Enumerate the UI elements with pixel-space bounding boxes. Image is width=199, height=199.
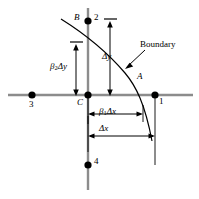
dim-beta2-delta-y-arrow-up xyxy=(73,44,79,51)
beta1-delta-x-term: Δx xyxy=(107,106,116,116)
boundary-leader-arrowhead xyxy=(125,63,133,69)
dim-label-delta-y: Δy xyxy=(102,52,111,61)
dim-label-delta-x: Δx xyxy=(99,124,108,133)
dim-beta1-arrow-right xyxy=(137,111,144,116)
boundary-leader-group xyxy=(125,50,145,69)
node-label-c: C xyxy=(77,98,83,107)
node-dot-4[interactable] xyxy=(84,161,91,168)
node-label-3: 3 xyxy=(29,100,34,109)
boundary-stencil-figure: 1 2 3 4 C A B Boundary Δy Δx β1Δx β2Δy xyxy=(0,0,199,199)
node-dot-3[interactable] xyxy=(28,91,35,98)
dim-label-beta2-delta-y: β2Δy xyxy=(50,62,67,72)
point-label-b: B xyxy=(74,13,80,22)
boundary-leader-line xyxy=(128,50,145,66)
node-label-1: 1 xyxy=(159,97,164,106)
dim-beta2-delta-y-group xyxy=(70,42,83,96)
boundary-label: Boundary xyxy=(140,40,176,49)
beta2-delta-y-term: Δy xyxy=(58,61,67,71)
node-dot-2[interactable] xyxy=(84,17,91,24)
node-label-2: 2 xyxy=(94,13,99,22)
node-label-4: 4 xyxy=(94,157,99,166)
node-dot-1[interactable] xyxy=(151,91,158,98)
dim-delta-y-arrow-up xyxy=(107,21,113,28)
node-dot-c[interactable] xyxy=(84,91,91,98)
point-label-a: A xyxy=(137,72,143,81)
axes-group xyxy=(8,8,193,190)
dim-label-beta1-delta-x: β1Δx xyxy=(99,107,116,117)
